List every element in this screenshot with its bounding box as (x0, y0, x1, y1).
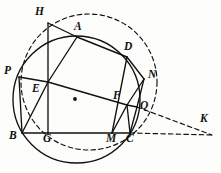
dashed-circle (21, 14, 157, 150)
segment-FC (127, 105, 130, 133)
vertex-label-g: G (43, 133, 51, 145)
vertex-label-c: C (126, 133, 134, 145)
vertex-label-n: N (148, 69, 156, 81)
center-dot-layer (73, 97, 77, 101)
vertex-label-e: E (32, 83, 40, 95)
segment-AD (77, 37, 127, 57)
vertex-label-p: P (4, 65, 11, 77)
geometry-figure: HADNPEFQBGMCK (0, 0, 221, 173)
vertex-label-q: Q (140, 100, 148, 112)
vertex-label-f: F (113, 90, 121, 102)
center-dot (73, 97, 77, 101)
vertex-label-a: A (74, 21, 82, 33)
vertex-label-d: D (124, 41, 132, 53)
segment-FQ (127, 105, 137, 107)
vertex-label-b: B (9, 130, 17, 142)
segment-HA (48, 23, 77, 37)
vertex-label-m: M (106, 133, 116, 145)
segment-CK (130, 133, 212, 135)
vertex-label-k: K (200, 113, 208, 125)
vertex-label-h: H (35, 6, 44, 18)
dashed-circle-layer (21, 14, 157, 150)
segment-AE (48, 37, 77, 82)
